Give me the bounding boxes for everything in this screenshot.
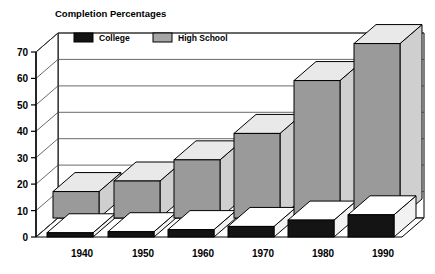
bar-group-1990 xyxy=(348,25,422,237)
x-tick-label: 1940 xyxy=(71,248,94,259)
bar-front-face xyxy=(108,232,154,237)
bar-front-face xyxy=(47,233,93,237)
bar-front-face xyxy=(234,133,280,218)
legend-label-high-school: High School xyxy=(178,33,228,43)
bar-front-face xyxy=(348,215,394,237)
x-tick-label: 1960 xyxy=(192,248,215,259)
x-tick-label: 1970 xyxy=(252,248,275,259)
legend-label-college: College xyxy=(99,33,130,43)
x-tick-label: 1980 xyxy=(312,248,335,259)
bar-front-face xyxy=(288,220,334,237)
legend-swatch-high-school xyxy=(153,33,172,42)
completion-percentages-chart: 70 60 50 40 30 20 10 0 1940 1950 1960 19… xyxy=(0,0,435,274)
chart-canvas: 70 60 50 40 30 20 10 0 1940 1950 1960 19… xyxy=(0,0,435,274)
y-tick-label: 30 xyxy=(17,153,29,164)
legend-item-high-school: High School xyxy=(153,33,228,43)
bar-high-school-1990 xyxy=(354,25,422,218)
x-tick-label: 1990 xyxy=(372,248,395,259)
y-tick-label: 50 xyxy=(17,100,29,111)
y-tick-label: 70 xyxy=(17,47,29,58)
bar-front-face xyxy=(354,44,400,218)
y-tick-label: 0 xyxy=(22,232,28,243)
x-tick-label: 1950 xyxy=(132,248,155,259)
y-tick-label: 10 xyxy=(17,206,29,217)
bar-front-face xyxy=(168,230,214,237)
bar-group-1960 xyxy=(168,141,242,237)
y-axis xyxy=(31,52,36,237)
chart-title: Completion Percentages xyxy=(55,8,166,19)
bar-front-face xyxy=(228,226,274,237)
bar-group-1980 xyxy=(288,62,362,237)
legend-swatch-college xyxy=(74,33,93,42)
bar-high-school-1980 xyxy=(294,62,362,218)
y-tick-labels: 70 60 50 40 30 20 10 0 xyxy=(17,47,29,243)
bar-front-face xyxy=(174,160,220,218)
bar-high-school-1960 xyxy=(174,141,242,218)
x-tick-labels: 1940 1950 1960 1970 1980 1990 xyxy=(71,248,395,259)
y-tick-label: 40 xyxy=(17,126,29,137)
y-tick-label: 60 xyxy=(17,73,29,84)
bar-high-school-1970 xyxy=(234,114,302,218)
bar-side-face xyxy=(400,25,422,218)
y-tick-label: 20 xyxy=(17,179,29,190)
legend-item-college: College xyxy=(74,33,130,43)
bar-front-face xyxy=(294,81,340,218)
